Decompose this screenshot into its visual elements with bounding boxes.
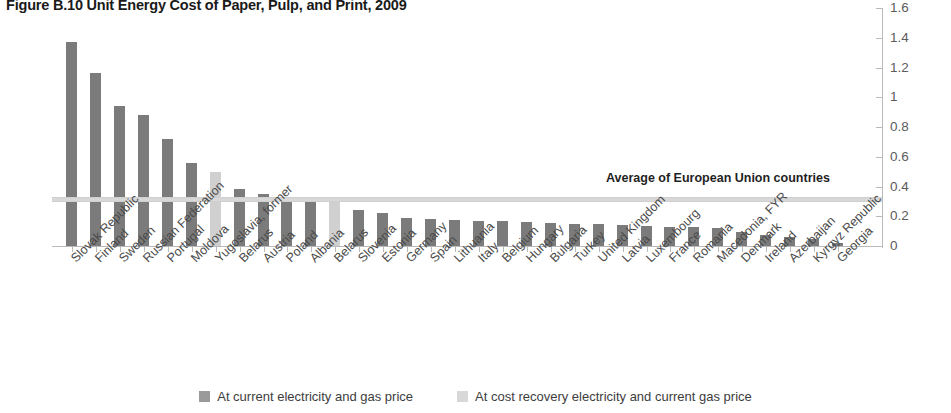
bar-fill bbox=[90, 73, 101, 246]
y-axis-tick-label: 0.4 bbox=[890, 180, 909, 194]
legend-label: At current electricity and gas price bbox=[217, 389, 413, 404]
bar-fill bbox=[377, 213, 388, 246]
x-axis-tick bbox=[575, 246, 576, 252]
bar-fill bbox=[808, 239, 819, 246]
average-line-label: Average of European Union countries bbox=[606, 171, 830, 185]
x-axis-tick bbox=[311, 246, 312, 252]
y-axis-tick bbox=[876, 68, 882, 69]
x-axis-tick bbox=[192, 246, 193, 252]
y-axis-tick-label: 1.4 bbox=[890, 31, 909, 45]
y-axis-tick-label: 1.2 bbox=[890, 61, 909, 75]
y-axis-tick bbox=[876, 97, 882, 98]
bar-fill bbox=[66, 42, 77, 246]
y-axis-tick-label: 0 bbox=[890, 239, 898, 253]
x-axis-tick bbox=[694, 246, 695, 252]
x-axis-tick bbox=[838, 246, 839, 252]
y-axis-line bbox=[882, 8, 883, 248]
x-axis-tick bbox=[527, 246, 528, 252]
x-axis-tick bbox=[431, 246, 432, 252]
bar-fill bbox=[162, 139, 173, 246]
legend-item-current: At current electricity and gas price bbox=[199, 389, 413, 404]
bar-fill bbox=[784, 237, 795, 246]
y-axis-tick bbox=[876, 8, 882, 9]
x-axis-tick bbox=[359, 246, 360, 252]
bar-fill bbox=[473, 221, 484, 246]
chart-plot-area bbox=[52, 8, 882, 246]
y-axis-tick-label: 0.2 bbox=[890, 209, 909, 223]
bar-fill bbox=[401, 218, 412, 246]
bar-fill bbox=[521, 222, 532, 246]
legend-swatch-icon bbox=[199, 391, 210, 402]
bar-fill bbox=[281, 197, 292, 246]
bar-fill bbox=[736, 232, 747, 246]
bar-fill bbox=[688, 227, 699, 246]
x-axis-tick bbox=[168, 246, 169, 252]
bar-fill bbox=[305, 200, 316, 246]
x-axis-tick bbox=[551, 246, 552, 252]
y-axis-tick bbox=[876, 246, 882, 247]
bar-fill bbox=[425, 219, 436, 246]
x-axis-tick bbox=[407, 246, 408, 252]
bar-fill bbox=[114, 106, 125, 246]
x-axis-tick bbox=[72, 246, 73, 252]
x-axis-tick bbox=[742, 246, 743, 252]
x-axis-tick bbox=[216, 246, 217, 252]
x-axis-tick bbox=[814, 246, 815, 252]
x-axis-line bbox=[52, 246, 883, 247]
bar-fill bbox=[569, 224, 580, 246]
y-axis-tick-label: 1 bbox=[890, 90, 898, 104]
x-axis-tick bbox=[718, 246, 719, 252]
y-axis-tick bbox=[876, 157, 882, 158]
x-axis-tick bbox=[647, 246, 648, 252]
legend-swatch-icon bbox=[457, 391, 468, 402]
x-axis-tick bbox=[599, 246, 600, 252]
y-axis-tick-label: 1.6 bbox=[890, 1, 909, 15]
bar-fill bbox=[617, 225, 628, 246]
y-axis-tick bbox=[876, 127, 882, 128]
x-axis-tick bbox=[335, 246, 336, 252]
bar-fill bbox=[497, 221, 508, 246]
y-axis-tick bbox=[876, 216, 882, 217]
x-axis-tick bbox=[455, 246, 456, 252]
bar-fill bbox=[760, 235, 771, 246]
x-axis-tick bbox=[144, 246, 145, 252]
bar-fill bbox=[210, 172, 221, 246]
bar-fill bbox=[353, 210, 364, 246]
bar-fill bbox=[641, 226, 652, 246]
x-axis-tick bbox=[790, 246, 791, 252]
bar-group bbox=[52, 8, 882, 246]
chart-legend: At current electricity and gas price At … bbox=[0, 389, 951, 404]
y-axis-tick bbox=[876, 187, 882, 188]
x-axis-tick bbox=[287, 246, 288, 252]
x-axis-tick bbox=[264, 246, 265, 252]
x-axis-tick bbox=[670, 246, 671, 252]
x-axis-tick bbox=[240, 246, 241, 252]
x-axis-tick bbox=[623, 246, 624, 252]
legend-item-cost-recovery: At cost recovery electricity and current… bbox=[457, 389, 752, 404]
bar-fill bbox=[138, 115, 149, 246]
x-axis-tick bbox=[96, 246, 97, 252]
x-axis-tick bbox=[479, 246, 480, 252]
x-axis-tick bbox=[120, 246, 121, 252]
y-axis-tick bbox=[876, 38, 882, 39]
y-axis-tick-label: 0.6 bbox=[890, 150, 909, 164]
bar-fill bbox=[449, 220, 460, 246]
bar-fill bbox=[186, 163, 197, 246]
bar-fill bbox=[329, 201, 340, 246]
y-axis-tick-label: 0.8 bbox=[890, 120, 909, 134]
x-axis-tick bbox=[503, 246, 504, 252]
x-axis-tick bbox=[383, 246, 384, 252]
legend-label: At cost recovery electricity and current… bbox=[475, 389, 752, 404]
bar-fill bbox=[545, 223, 556, 246]
x-axis-tick bbox=[766, 246, 767, 252]
bar-fill bbox=[664, 227, 675, 246]
bar-fill bbox=[712, 228, 723, 246]
average-line bbox=[52, 197, 882, 202]
bar-fill bbox=[593, 224, 604, 246]
